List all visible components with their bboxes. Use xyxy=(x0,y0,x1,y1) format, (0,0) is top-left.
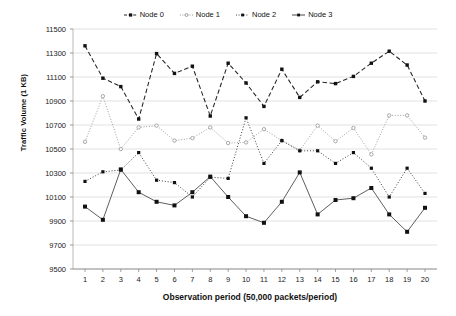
data-point xyxy=(83,140,86,143)
x-tick-label: 15 xyxy=(328,275,344,284)
y-tick-label: 10500 xyxy=(30,145,66,154)
x-tick-label: 19 xyxy=(399,275,415,284)
data-point xyxy=(191,65,194,68)
plot-area xyxy=(0,0,456,316)
data-point xyxy=(83,205,87,209)
x-tick-label: 2 xyxy=(95,275,111,284)
data-point xyxy=(244,141,247,144)
data-point xyxy=(226,195,230,199)
data-point xyxy=(137,151,140,154)
data-point xyxy=(119,147,122,150)
data-point xyxy=(101,77,104,80)
y-tick-label: 10900 xyxy=(30,97,66,106)
y-tick-label: 9900 xyxy=(30,217,66,226)
x-tick-label: 16 xyxy=(345,275,361,284)
data-point xyxy=(280,68,283,71)
data-point xyxy=(227,177,230,180)
data-point xyxy=(334,82,337,85)
x-tick-label: 11 xyxy=(256,275,272,284)
x-tick-label: 10 xyxy=(238,275,254,284)
data-point xyxy=(405,63,408,66)
data-point xyxy=(209,126,212,129)
y-tick-label: 9500 xyxy=(30,265,66,274)
data-point xyxy=(137,117,140,120)
data-point xyxy=(351,196,355,200)
data-point xyxy=(352,126,355,129)
data-point xyxy=(101,95,104,98)
x-tick-label: 7 xyxy=(184,275,200,284)
y-axis-title: Traffic Volume (1 KB) xyxy=(19,43,28,183)
data-point xyxy=(209,114,212,117)
x-tick-label: 13 xyxy=(292,275,308,284)
data-point xyxy=(262,128,265,131)
series-line xyxy=(85,118,425,197)
data-point xyxy=(423,192,426,195)
x-tick-label: 17 xyxy=(363,275,379,284)
data-point xyxy=(244,81,247,84)
y-tick-label: 11300 xyxy=(30,49,66,58)
data-point xyxy=(155,179,158,182)
y-tick-label: 9700 xyxy=(30,241,66,250)
data-point xyxy=(137,190,141,194)
x-tick-label: 5 xyxy=(149,275,165,284)
data-point xyxy=(370,153,373,156)
x-tick-label: 18 xyxy=(381,275,397,284)
data-point xyxy=(406,167,409,170)
x-tick-label: 1 xyxy=(77,275,93,284)
data-point xyxy=(226,62,229,65)
data-point xyxy=(334,162,337,165)
series-line xyxy=(85,46,425,119)
data-point xyxy=(173,181,176,184)
series-node-3 xyxy=(83,44,426,121)
data-point xyxy=(262,162,265,165)
data-point xyxy=(334,198,338,202)
x-tick-label: 14 xyxy=(310,275,326,284)
data-point xyxy=(423,99,426,102)
data-point xyxy=(316,124,319,127)
data-point xyxy=(387,212,391,216)
traffic-volume-line-chart: Node 0 Node 1 Node 2 xyxy=(0,0,456,316)
data-point xyxy=(155,124,158,127)
data-point xyxy=(405,230,409,234)
data-point xyxy=(172,203,176,207)
series-line xyxy=(85,169,425,231)
data-point xyxy=(226,141,229,144)
y-tick-label: 10700 xyxy=(30,121,66,130)
data-point xyxy=(119,85,122,88)
data-point xyxy=(191,137,194,140)
data-point xyxy=(370,62,373,65)
data-point xyxy=(298,170,302,174)
y-tick-label: 10100 xyxy=(30,193,66,202)
data-point xyxy=(388,114,391,117)
data-point xyxy=(423,206,427,210)
data-point xyxy=(262,221,266,225)
x-tick-marks xyxy=(85,269,425,272)
data-point xyxy=(316,80,319,83)
x-tick-label: 6 xyxy=(166,275,182,284)
data-point xyxy=(83,44,86,47)
data-point xyxy=(388,50,391,53)
data-point xyxy=(155,200,159,204)
series-node-2 xyxy=(83,116,426,198)
x-tick-label: 8 xyxy=(202,275,218,284)
data-point xyxy=(190,190,194,194)
data-point xyxy=(405,114,408,117)
data-point xyxy=(244,116,247,119)
data-point xyxy=(262,105,265,108)
data-point xyxy=(83,180,86,183)
data-point xyxy=(352,151,355,154)
data-point xyxy=(388,195,391,198)
data-point xyxy=(173,139,176,142)
data-point xyxy=(101,170,104,173)
data-point xyxy=(191,195,194,198)
data-point xyxy=(280,200,284,204)
data-point xyxy=(316,212,320,216)
data-point xyxy=(173,72,176,75)
series-node-0 xyxy=(83,167,427,233)
x-tick-label: 9 xyxy=(220,275,236,284)
x-tick-label: 20 xyxy=(417,275,433,284)
y-tick-label: 10300 xyxy=(30,169,66,178)
data-point xyxy=(119,168,122,171)
data-point xyxy=(101,218,105,222)
data-point xyxy=(137,126,140,129)
